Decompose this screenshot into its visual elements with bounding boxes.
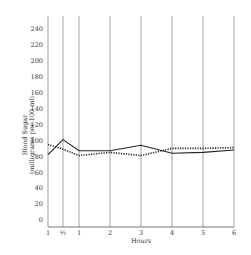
- vertical-gridlines: [48, 16, 234, 227]
- x-tick-label: 4: [170, 229, 174, 237]
- y-tick-label: 240: [31, 25, 43, 33]
- y-tick-label: 20: [35, 200, 43, 208]
- x-tick-label: 2: [108, 229, 112, 237]
- x-tick-label: 3: [139, 229, 143, 237]
- y-tick-label: 200: [31, 57, 43, 65]
- x-tick-label: 6: [232, 229, 236, 237]
- blood-sugar-chart: 020406080100120140160180200220240 1½1234…: [0, 0, 251, 255]
- x-tick-label: ½: [60, 229, 66, 237]
- y-tick-label: 0: [39, 216, 43, 224]
- x-tick-labels: 1½123456: [46, 229, 236, 237]
- y-tick-label: 40: [35, 184, 43, 192]
- svg-text:(milligrams per 100 ml): (milligrams per 100 ml): [28, 95, 36, 174]
- x-tick-label: 1: [77, 229, 81, 237]
- y-tick-label: 220: [31, 41, 43, 49]
- x-tick-label: 1: [46, 229, 50, 237]
- x-axis-label: Hours: [131, 237, 151, 245]
- y-axis-label: Blood Sugar (milligrams per 100 ml): [21, 95, 36, 174]
- x-tick-label: 5: [201, 229, 205, 237]
- y-tick-label: 160: [31, 89, 43, 97]
- y-tick-label: 180: [31, 73, 43, 81]
